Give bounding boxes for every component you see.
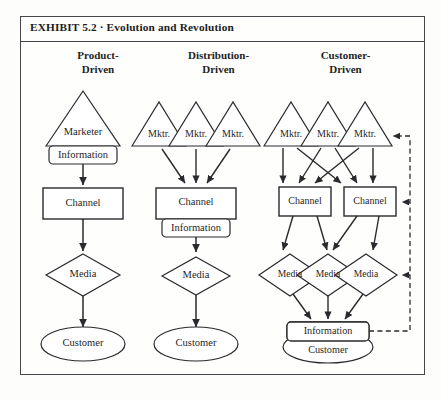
channel-label-col1: Channel [66, 197, 101, 208]
arrow-mktr2-to-channelA-col3 [299, 148, 321, 183]
exhibit-figure: EXHIBIT 5.2 · Evolution and Revolution P… [0, 0, 441, 401]
arrow-mktr1-to-channelB-col3 [297, 148, 341, 183]
marketer-triangle [46, 91, 120, 146]
column-distribution-driven: Mktr. Mktr. Mktr. Channel Information Me… [132, 102, 260, 361]
column-product-driven: Marketer Information Channel Media Custo… [41, 91, 125, 361]
customer-label-col3: Customer [308, 344, 348, 355]
media-label-col2: Media [183, 269, 210, 280]
arrow-channelA-to-media2-col3 [317, 216, 327, 250]
information-label-col1: Information [58, 149, 109, 160]
arrow-channelA-to-media1-col3 [283, 216, 293, 250]
mktr-triangle-3-col3 [338, 102, 392, 146]
media-label-3-col3: Media [354, 268, 379, 279]
media-label-col1: Media [70, 268, 97, 279]
arrow-mktr3-to-channelA-col3 [315, 148, 359, 183]
exhibit-frame: EXHIBIT 5.2 · Evolution and Revolution P… [20, 16, 425, 375]
mktr-triangle-3-col2 [206, 102, 260, 146]
customer-label-col2: Customer [176, 337, 217, 348]
channel-label-1-col3: Channel [288, 195, 322, 206]
media-label-1-col3: Media [278, 268, 303, 279]
column-customer-driven: Mktr. Mktr. Mktr. Channel Channel [259, 102, 410, 363]
arrow-mktr3-to-channel-col2 [207, 149, 230, 183]
information-label-col3-top: Information [304, 325, 353, 336]
arrow-media1-to-information-col3 [293, 294, 311, 319]
mktr-label-1-col2: Mktr. [148, 128, 170, 139]
channel-label-2-col3: Channel [353, 195, 387, 206]
mktr-label-2-col2: Mktr. [185, 128, 207, 139]
mktr-label-3-col3: Mktr. [354, 128, 376, 139]
arrow-mktr2-to-channelB-col3 [335, 148, 357, 183]
information-label-col2: Information [171, 222, 222, 233]
mktr-label-1-col3: Mktr. [280, 128, 302, 139]
customer-label-col1: Customer [63, 337, 104, 348]
media-label-2-col3: Media [316, 268, 341, 279]
mktr-label-3-col2: Mktr. [222, 128, 244, 139]
marketer-label: Marketer [64, 126, 103, 137]
channel-label-col2: Channel [179, 196, 214, 207]
arrow-media3-to-information-col3 [345, 294, 363, 319]
arrow-channelB-to-media2-col3 [333, 216, 357, 250]
arrow-mktr1-to-channel-col2 [162, 149, 185, 183]
mktr-label-2-col3: Mktr. [317, 128, 339, 139]
arrow-channelB-to-media3-col3 [373, 216, 379, 250]
diagram-canvas: Marketer Information Channel Media Custo… [21, 17, 424, 374]
